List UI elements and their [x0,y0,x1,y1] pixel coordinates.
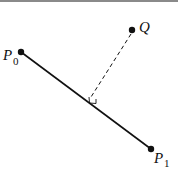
perpendicular-dashed-line [91,34,131,97]
label-p0-subscript: 0 [13,55,19,67]
point-p0-dot [18,49,24,55]
point-q-dot [129,27,135,33]
label-q: Q [139,19,150,35]
diagram-svg: P 0 P 1 Q [0,0,178,174]
label-p0: P [2,47,12,63]
diagram-canvas: P 0 P 1 Q [0,0,178,174]
segment-p0-p1 [21,52,151,149]
label-p1: P [153,150,163,166]
label-p1-subscript: 1 [164,157,170,169]
